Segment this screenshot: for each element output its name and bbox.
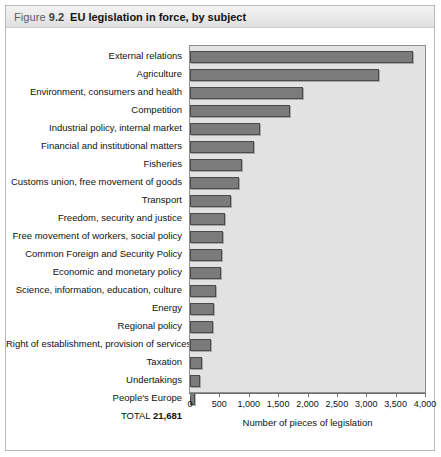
category-label: Common Foreign and Security Policy [6,245,186,263]
x-axis-tick-label: 2,500 [326,399,349,409]
bar-row [190,84,425,102]
x-axis-title: Number of pieces of legislation [189,417,426,428]
figure-frame: Figure 9.2 EU legislation in force, by s… [5,5,435,451]
bar [190,177,239,189]
plot-area [189,45,426,393]
x-axis-tick-label: 3,500 [384,399,407,409]
x-axis-tick [337,393,338,397]
x-axis-tick [308,393,309,397]
x-axis-tick-label: 2,000 [296,399,319,409]
bar-row [190,174,425,192]
x-axis-tick [396,393,397,397]
total-value: 21,681 [153,410,182,421]
bar-row [190,300,425,318]
x-axis-tick-label: 4,000 [414,399,437,409]
x-axis-tick [249,393,250,397]
bar-row [190,264,425,282]
bar [190,123,260,135]
bar [190,267,221,279]
bar [190,213,225,225]
bar-row [190,156,425,174]
category-label: Taxation [6,353,186,371]
bar [190,375,200,387]
bar [190,69,379,81]
total-caption: TOTAL [121,410,153,421]
bar-row [190,336,425,354]
bar [190,339,211,351]
category-label: Energy [6,299,186,317]
category-label: Economic and monetary policy [6,263,186,281]
category-label: Undertakings [6,371,186,389]
x-axis-tick [366,393,367,397]
total-label: TOTAL 21,681 [6,407,186,425]
category-label-column: External relationsAgricultureEnvironment… [6,47,186,425]
bar-row [190,354,425,372]
category-label: Agriculture [6,65,186,83]
bar-row [190,102,425,120]
category-label: Transport [6,191,186,209]
bar-row [190,246,425,264]
category-label: Environment, consumers and health [6,83,186,101]
category-label: Freedom, security and justice [6,209,186,227]
category-label: People's Europe [6,389,186,407]
category-label: Financial and institutional matters [6,137,186,155]
bar-row [190,192,425,210]
bar-row [190,66,425,84]
category-label: Fisheries [6,155,186,173]
bar [190,357,202,369]
x-axis-tick [278,393,279,397]
bar-row [190,138,425,156]
bar-row [190,318,425,336]
bar [190,285,216,297]
bar-row [190,48,425,66]
x-axis-tick [425,393,426,397]
bar-rows [190,48,425,408]
bar-row [190,210,425,228]
x-axis-tick [190,393,191,397]
x-axis-tick-label: 1,000 [237,399,260,409]
category-label: Regional policy [6,317,186,335]
category-label: Science, information, education, culture [6,281,186,299]
category-label: Free movement of workers, social policy [6,227,186,245]
chart-area: External relationsAgricultureEnvironment… [6,28,436,452]
figure-number: 9.2 [49,11,64,23]
bar [190,105,290,117]
category-label: External relations [6,47,186,65]
bar [190,141,254,153]
category-label: Right of establishment, provision of ser… [6,335,186,353]
figure-title: EU legislation in force, by subject [70,11,246,23]
bar [190,51,413,63]
category-label: Customs union, free movement of goods [6,173,186,191]
bar [190,303,214,315]
x-axis-tick-label: 0 [187,399,192,409]
bar [190,159,242,171]
figure-header: Figure 9.2 EU legislation in force, by s… [6,6,434,28]
category-label: Competition [6,101,186,119]
bar [190,321,213,333]
bar [190,231,223,243]
bar-row [190,282,425,300]
x-axis-tick-label: 500 [212,399,227,409]
x-axis-tick-label: 3,000 [355,399,378,409]
category-label: Industrial policy, internal market [6,119,186,137]
figure-label: Figure [14,11,46,23]
bar-row [190,120,425,138]
bar [190,249,222,261]
x-axis-tick [219,393,220,397]
bar-row [190,372,425,390]
bar-row [190,228,425,246]
bar [190,87,303,99]
bar [190,195,231,207]
x-axis-tick-label: 1,500 [267,399,290,409]
